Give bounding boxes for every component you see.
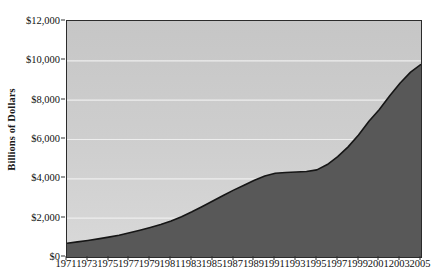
y-axis-tick-mark bbox=[61, 177, 65, 178]
area-chart-svg bbox=[67, 21, 421, 257]
x-axis-tick-mark bbox=[357, 256, 358, 260]
y-axis-tick-mark bbox=[61, 256, 65, 257]
y-axis-tick-label: $6,000 bbox=[14, 133, 60, 144]
y-axis-tick-mark bbox=[61, 20, 65, 21]
y-axis-tick-label: $2,000 bbox=[14, 211, 60, 222]
y-axis-tick-mark bbox=[61, 98, 65, 99]
area-series-fill bbox=[67, 64, 421, 257]
x-axis-tick-mark bbox=[86, 256, 87, 260]
x-axis-tick-mark bbox=[336, 256, 337, 260]
y-axis-tick-label: $4,000 bbox=[14, 172, 60, 183]
x-axis-tick-mark bbox=[295, 256, 296, 260]
y-axis-tick-label: $12,000 bbox=[14, 15, 60, 26]
x-axis-tick-mark bbox=[211, 256, 212, 260]
x-axis-tick-mark bbox=[149, 256, 150, 260]
y-axis-tick-labels: $0$2,000$4,000$6,000$8,000$10,000$12,000 bbox=[12, 0, 60, 278]
y-axis-tick-mark bbox=[61, 216, 65, 217]
x-axis-tick-mark bbox=[107, 256, 108, 260]
y-axis-tick-label: $8,000 bbox=[14, 93, 60, 104]
x-axis-tick-mark bbox=[274, 256, 275, 260]
chart-page: Billions of Dollars $0$2,000$4,000$6,000… bbox=[0, 0, 440, 278]
y-axis-tick-mark bbox=[61, 138, 65, 139]
x-axis-tick-mark bbox=[253, 256, 254, 260]
plot-area bbox=[66, 20, 422, 258]
x-axis-tick-labels: 1971197319751977197919811983198519871989… bbox=[66, 258, 420, 274]
y-axis-tick-mark bbox=[61, 59, 65, 60]
x-axis-tick-mark bbox=[128, 256, 129, 260]
x-axis-tick-mark bbox=[399, 256, 400, 260]
y-axis-tick-label: $10,000 bbox=[14, 54, 60, 65]
x-axis-tick-mark bbox=[315, 256, 316, 260]
x-axis-tick-mark bbox=[420, 256, 421, 260]
y-axis-tick-label: $0 bbox=[14, 251, 60, 262]
x-axis-tick-mark bbox=[232, 256, 233, 260]
x-axis-tick-mark bbox=[378, 256, 379, 260]
x-axis-tick-mark bbox=[170, 256, 171, 260]
x-axis-tick-mark bbox=[66, 256, 67, 260]
x-axis-tick-mark bbox=[190, 256, 191, 260]
